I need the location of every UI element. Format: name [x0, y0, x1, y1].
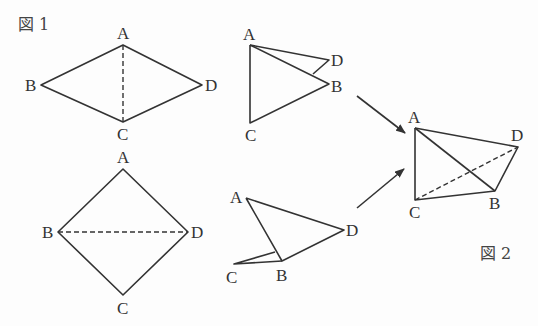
- arrow-upper-to-fig2: [357, 96, 405, 133]
- fig2-label-a: A: [408, 108, 421, 127]
- figure1-label: 図 1: [18, 15, 49, 34]
- tetrahedron-outline: [415, 128, 518, 200]
- upper-label-c: C: [245, 126, 256, 145]
- tetrahedron-edge-cd-hidden: [415, 147, 518, 200]
- rhombus-label-c: C: [117, 125, 128, 144]
- rhombus-label-b: B: [25, 76, 36, 95]
- upper-triangle-acb: [250, 45, 329, 123]
- upper-flap-ad: [250, 45, 329, 74]
- lower-label-c: C: [226, 268, 237, 287]
- fig2-label-d: D: [511, 126, 523, 145]
- figure2-label: 図 2: [480, 244, 511, 263]
- square-label-c: C: [117, 299, 128, 318]
- upper-label-d: D: [331, 51, 343, 70]
- rhombus-figure: A B C D: [25, 24, 217, 144]
- tetrahedron-figure: A D B C: [408, 108, 523, 222]
- upper-folded-piece: A D B C: [243, 25, 343, 145]
- lower-label-b: B: [276, 266, 287, 285]
- rhombus-label-a: A: [117, 24, 130, 43]
- upper-label-a: A: [243, 25, 256, 44]
- diagram-canvas: 図 1 A B C D A B C D A D B C A D B C: [0, 0, 538, 326]
- lower-triangle-adb: [246, 198, 344, 261]
- rhombus-label-d: D: [205, 76, 217, 95]
- arrow-lower-to-fig2: [357, 169, 404, 208]
- lower-flap-c: [234, 252, 282, 264]
- square-label-b: B: [42, 223, 53, 242]
- upper-label-b: B: [331, 77, 342, 96]
- square-figure: A B C D: [42, 148, 203, 318]
- rhombus-outline: [41, 45, 202, 122]
- square-label-a: A: [117, 148, 130, 167]
- square-label-d: D: [191, 223, 203, 242]
- lower-label-d: D: [346, 221, 358, 240]
- lower-folded-piece: A D B C: [226, 188, 358, 287]
- fig2-label-c: C: [409, 203, 420, 222]
- fig2-label-b: B: [489, 194, 500, 213]
- tetrahedron-edge-ab: [415, 128, 495, 191]
- lower-label-a: A: [230, 188, 243, 207]
